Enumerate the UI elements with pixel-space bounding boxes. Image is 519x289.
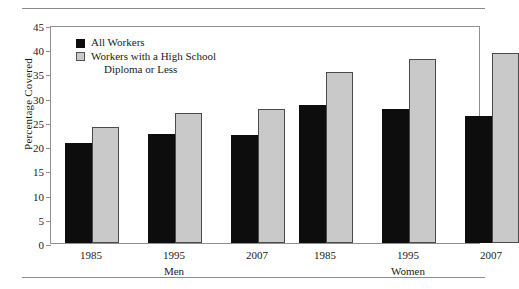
bar-hs-or-less-1	[175, 113, 202, 243]
bar-all-workers-5	[465, 116, 492, 243]
legend-swatch-all-workers	[76, 39, 85, 48]
y-tick-30	[46, 100, 51, 101]
bar-all-workers-4	[382, 109, 409, 243]
bar-hs-or-less-5	[492, 53, 519, 243]
y-tick-label-30: 30	[33, 94, 44, 106]
bar-hs-or-less-2	[258, 109, 285, 243]
bar-hs-or-less-0	[92, 127, 119, 243]
bar-all-workers-2	[231, 135, 258, 243]
y-tick-10	[46, 197, 51, 198]
y-tick-0	[46, 245, 51, 246]
bar-hs-or-less-3	[326, 72, 353, 243]
x-tick-label-4: 1995	[397, 249, 419, 261]
y-tick-label-20: 20	[33, 142, 44, 154]
chart-legend: All Workers Workers with a High School D…	[76, 36, 216, 77]
legend-label-hs-or-less-line2: Diploma or Less	[104, 63, 216, 77]
x-tick-label-0: 1985	[80, 249, 102, 261]
y-tick-label-35: 35	[33, 69, 44, 81]
y-tick-45	[46, 27, 51, 28]
bottom-rule	[22, 277, 485, 278]
y-tick-35	[46, 75, 51, 76]
y-tick-label-5: 5	[39, 215, 45, 227]
y-tick-25	[46, 124, 51, 125]
bar-all-workers-3	[299, 105, 326, 243]
x-tick-label-5: 2007	[480, 249, 502, 261]
legend-label-hs-or-less: Workers with a High School	[91, 50, 216, 64]
x-tick-label-1: 1995	[163, 249, 185, 261]
group-label-men: Men	[164, 265, 184, 277]
y-tick-label-45: 45	[33, 21, 44, 33]
y-tick-label-25: 25	[33, 118, 44, 130]
legend-swatch-hs-or-less	[76, 52, 85, 61]
y-tick-label-40: 40	[33, 45, 44, 57]
y-tick-20	[46, 148, 51, 149]
legend-item-hs-or-less: Workers with a High School	[76, 50, 216, 64]
y-tick-label-15: 15	[33, 166, 44, 178]
y-tick-5	[46, 221, 51, 222]
x-tick-label-3: 1985	[314, 249, 336, 261]
y-tick-15	[46, 172, 51, 173]
group-label-women: Women	[391, 265, 425, 277]
bar-all-workers-1	[148, 134, 175, 243]
y-tick-40	[46, 51, 51, 52]
y-tick-label-0: 0	[39, 239, 45, 251]
legend-label-all-workers: All Workers	[91, 36, 145, 50]
bar-all-workers-0	[65, 143, 92, 243]
x-tick-label-2: 2007	[246, 249, 268, 261]
top-rule	[22, 8, 485, 9]
y-tick-label-10: 10	[33, 191, 44, 203]
bar-hs-or-less-4	[409, 59, 436, 243]
legend-item-all-workers: All Workers	[76, 36, 216, 50]
